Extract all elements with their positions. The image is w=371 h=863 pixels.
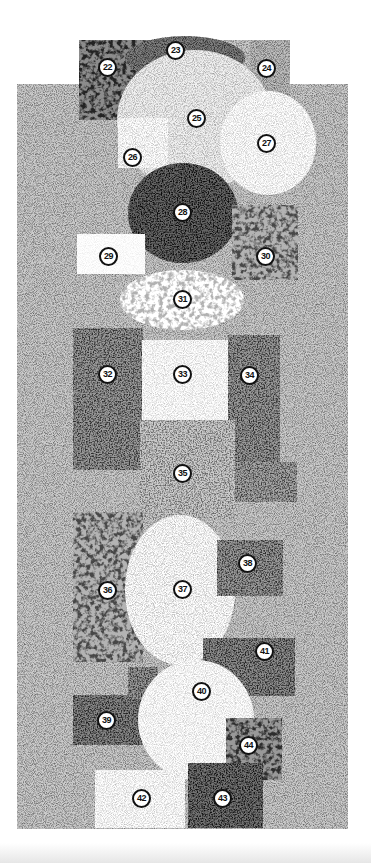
- patch-label-39: 39: [97, 711, 116, 730]
- patch-label-42: 42: [132, 789, 151, 808]
- patch-label-30: 30: [256, 247, 275, 266]
- texture-patch-30: [232, 205, 298, 280]
- texture-patch-33: [142, 340, 232, 430]
- patch-label-37: 37: [173, 580, 192, 599]
- patch-label-25: 25: [187, 109, 206, 128]
- patch-label-22: 22: [98, 58, 117, 77]
- patch-label-34: 34: [240, 366, 259, 385]
- patch-label-38: 38: [238, 554, 257, 573]
- texture-patch-35b: [235, 462, 297, 502]
- patch-label-23: 23: [166, 41, 185, 60]
- patch-label-36: 36: [98, 581, 117, 600]
- patch-label-28: 28: [173, 203, 192, 222]
- patch-label-44: 44: [239, 736, 258, 755]
- patch-label-43: 43: [213, 789, 232, 808]
- texture-patch-32: [73, 328, 143, 470]
- patch-label-27: 27: [257, 134, 276, 153]
- patch-label-29: 29: [99, 247, 118, 266]
- patch-label-41: 41: [255, 642, 274, 661]
- patch-label-26: 26: [123, 148, 142, 167]
- texture-figure: [0, 0, 371, 863]
- texture-patch-34: [228, 335, 280, 465]
- patch-label-32: 32: [98, 365, 117, 384]
- patch-label-33: 33: [173, 365, 192, 384]
- patch-label-35: 35: [173, 464, 192, 483]
- patch-label-40: 40: [192, 682, 211, 701]
- patch-label-31: 31: [173, 290, 192, 309]
- patch-label-24: 24: [257, 59, 276, 78]
- page-edge-shadow: [0, 843, 371, 863]
